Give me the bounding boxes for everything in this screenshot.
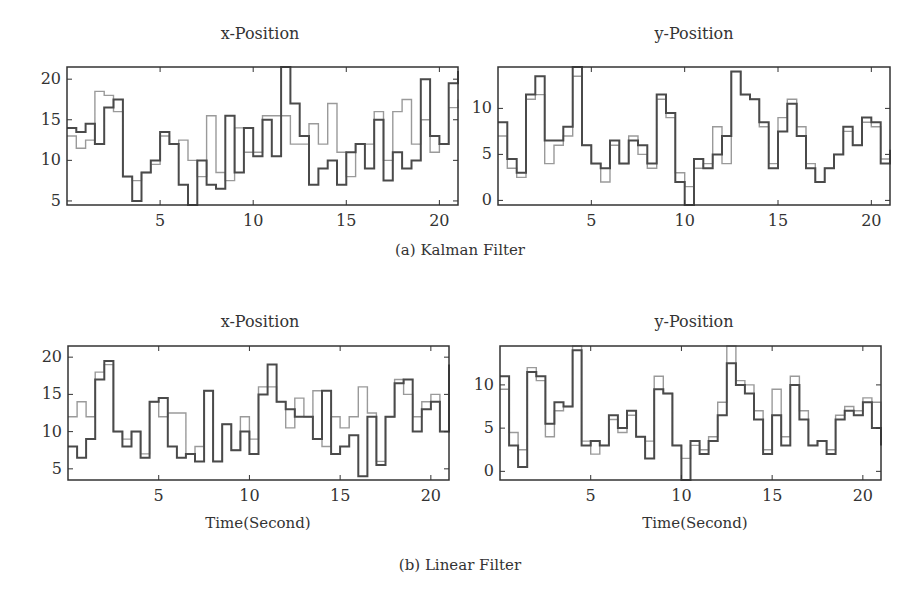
x-tick-label: 5 xyxy=(576,211,606,230)
y-tick-label: 10 xyxy=(464,375,494,394)
y-tick-label: 15 xyxy=(31,110,61,129)
y-tick-label: 0 xyxy=(464,461,494,480)
xlabel-linear-y: Time(Second) xyxy=(595,514,795,532)
y-tick-label: 0 xyxy=(462,190,492,209)
plot-kalman-y-position xyxy=(498,67,890,205)
chart-title-linear-y: y-Position xyxy=(594,312,794,331)
y-tick-label: 10 xyxy=(31,150,61,169)
chart-title-kalman-y: y-Position xyxy=(594,24,794,43)
x-tick-label: 15 xyxy=(763,211,793,230)
y-tick-label: 5 xyxy=(31,191,61,210)
series-dark-line xyxy=(500,350,881,480)
caption-linear-filter: (b) Linear Filter xyxy=(310,556,610,574)
x-tick-label: 20 xyxy=(416,486,446,505)
caption-kalman-filter: (a) Kalman Filter xyxy=(310,241,610,259)
series-dark-line xyxy=(498,67,890,205)
y-tick-label: 10 xyxy=(32,422,62,441)
x-tick-label: 20 xyxy=(848,486,878,505)
y-tick-label: 20 xyxy=(32,347,62,366)
x-tick-label: 10 xyxy=(670,211,700,230)
x-tick-label: 15 xyxy=(325,486,355,505)
y-tick-label: 20 xyxy=(31,69,61,88)
xlabel-linear-x: Time(Second) xyxy=(158,514,358,532)
plot-linear-x-position xyxy=(68,346,449,480)
plot-linear-y-position xyxy=(500,346,881,480)
plot-kalman-x-position xyxy=(67,67,458,205)
y-tick-label: 5 xyxy=(462,144,492,163)
y-tick-label: 5 xyxy=(464,418,494,437)
x-tick-label: 5 xyxy=(576,486,606,505)
x-tick-label: 10 xyxy=(234,486,264,505)
y-tick-label: 15 xyxy=(32,384,62,403)
x-tick-label: 15 xyxy=(757,486,787,505)
series-dark-line xyxy=(68,361,449,476)
x-tick-label: 10 xyxy=(666,486,696,505)
x-tick-label: 20 xyxy=(856,211,886,230)
x-tick-label: 5 xyxy=(145,211,175,230)
y-tick-label: 10 xyxy=(462,98,492,117)
chart-title-kalman-x: x-Position xyxy=(160,24,360,43)
y-tick-label: 5 xyxy=(32,459,62,478)
x-tick-label: 10 xyxy=(238,211,268,230)
x-tick-label: 20 xyxy=(424,211,454,230)
series-dark-line xyxy=(67,67,458,205)
x-tick-label: 5 xyxy=(144,486,174,505)
x-tick-label: 15 xyxy=(331,211,361,230)
chart-title-linear-x: x-Position xyxy=(160,312,360,331)
